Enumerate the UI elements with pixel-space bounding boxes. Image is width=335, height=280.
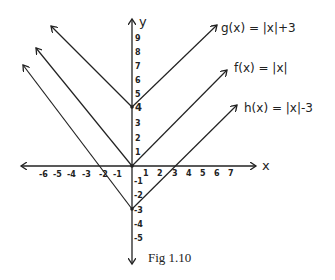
absolute-value-graph: x y g(x) = |x|+3 f(x) = |x| h(x) = |x|-3… (0, 0, 335, 280)
label-f: f(x) = |x| (234, 61, 288, 75)
label-g: g(x) = |x|+3 (221, 21, 296, 35)
svg-text:7: 7 (228, 169, 234, 178)
svg-text:5: 5 (135, 90, 141, 99)
svg-text:2: 2 (135, 134, 141, 143)
svg-text:1: 1 (143, 169, 149, 178)
svg-text:-2: -2 (134, 191, 143, 200)
svg-text:-3: -3 (82, 170, 91, 179)
svg-text:6: 6 (214, 169, 220, 178)
svg-text:8: 8 (135, 48, 141, 57)
x-ticks-negative: -6 -5 -4 -3 -2 -1 (39, 170, 122, 179)
y-axis-label: y (139, 14, 147, 29)
vertex-g (130, 105, 134, 109)
x-axis-label: x (262, 158, 270, 173)
svg-text:3: 3 (172, 169, 178, 178)
svg-text:-1: -1 (134, 177, 143, 186)
svg-text:3: 3 (135, 119, 141, 128)
figure-caption: Fig 1.10 (148, 250, 191, 265)
axes: x y (21, 14, 270, 264)
svg-text:-4: -4 (67, 170, 76, 179)
svg-text:2: 2 (157, 169, 163, 178)
svg-text:4: 4 (186, 169, 192, 178)
y-ticks-positive: 1 2 3 4 5 6 7 8 9 (135, 34, 142, 157)
svg-text:-4: -4 (134, 220, 143, 229)
svg-text:4: 4 (135, 102, 142, 113)
svg-text:5: 5 (200, 169, 206, 178)
svg-text:6: 6 (135, 76, 141, 85)
svg-text:-5: -5 (53, 170, 62, 179)
svg-text:-5: -5 (134, 234, 143, 243)
svg-text:7: 7 (135, 62, 141, 71)
y-ticks-negative: -1 -2 -3 -4 -5 (134, 177, 143, 243)
svg-text:-1: -1 (113, 170, 122, 179)
x-ticks-positive: 1 2 3 4 5 6 7 (143, 169, 234, 178)
label-h: h(x) = |x|-3 (244, 101, 313, 115)
vertex-f (130, 164, 134, 168)
svg-text:9: 9 (135, 34, 141, 43)
curve-g (51, 25, 217, 107)
svg-text:-3: -3 (134, 206, 143, 215)
svg-text:1: 1 (135, 148, 141, 157)
svg-text:-2: -2 (99, 170, 108, 179)
curve-h (23, 65, 237, 209)
svg-text:-6: -6 (39, 170, 48, 179)
